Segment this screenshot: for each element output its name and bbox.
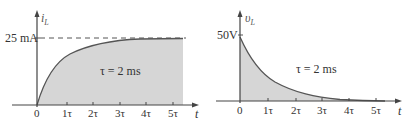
il-tau-annotation: τ = 2 ms bbox=[100, 64, 141, 79]
vl-y-axis-arrow-icon bbox=[238, 10, 243, 17]
vl-tau-annotation: τ = 2 ms bbox=[296, 62, 337, 77]
il-y-axis-arrow-icon bbox=[35, 10, 40, 17]
vl-y-axis-label: υL bbox=[245, 11, 255, 27]
vl-tick-2: 2τ bbox=[291, 104, 301, 116]
il-ylabel-sub: L bbox=[44, 18, 48, 27]
vl-x-axis-arrow-icon bbox=[395, 99, 402, 104]
vl-tick-0: 0 bbox=[237, 104, 243, 116]
vl-tick-labels: 0 1τ 2τ 3τ 4τ 5τ bbox=[0, 104, 412, 120]
vl-tick-5: 5τ bbox=[371, 104, 381, 116]
vl-ylabel-sub: L bbox=[251, 18, 255, 27]
vl-tick-1: 1τ bbox=[263, 104, 273, 116]
il-level-label: 25 mA bbox=[5, 31, 38, 46]
vl-chart bbox=[216, 10, 402, 104]
vl-tick-4: 4τ bbox=[344, 104, 354, 116]
il-y-axis-label: iL bbox=[41, 11, 49, 27]
vl-tick-3: 3τ bbox=[317, 104, 327, 116]
vl-level-label: 50V bbox=[217, 28, 238, 43]
